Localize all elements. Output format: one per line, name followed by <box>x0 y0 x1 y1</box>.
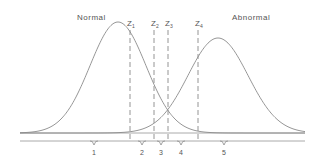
region-label-r3: 3 <box>159 149 163 156</box>
normal-label: Normal <box>77 13 106 22</box>
threshold-label-z3: Z3 <box>165 19 173 29</box>
region-label-r2: 2 <box>140 149 144 156</box>
region-brace-r3 <box>157 141 165 145</box>
region-label-r5: 5 <box>222 149 226 156</box>
region-label-r4: 4 <box>179 149 183 156</box>
region-brace-r2 <box>138 141 146 145</box>
distribution-overlap-diagram: Z1Z2Z3Z4 Normal Abnormal 12345 <box>0 0 327 168</box>
threshold-label-z4: Z4 <box>195 19 203 29</box>
region-brace-r1 <box>90 141 98 145</box>
threshold-label-z1: Z1 <box>127 19 135 29</box>
threshold-label-z2: Z2 <box>151 19 159 29</box>
region-brace-r5 <box>220 141 228 145</box>
threshold-lines <box>130 30 198 141</box>
region-braces: 12345 <box>90 141 228 156</box>
region-label-r1: 1 <box>92 149 96 156</box>
abnormal-distribution-curve <box>20 38 305 133</box>
threshold-labels: Z1Z2Z3Z4 <box>127 19 203 29</box>
region-brace-r4 <box>177 141 185 145</box>
abnormal-label: Abnormal <box>232 13 270 22</box>
